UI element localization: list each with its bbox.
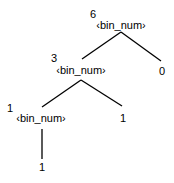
edge-root-left	[82, 32, 121, 59]
tree-edges	[0, 0, 174, 183]
edge-root-right	[121, 32, 161, 61]
leftleft-value: 1	[7, 102, 13, 114]
edge-left-leftleft	[42, 80, 81, 107]
root-value: 6	[90, 8, 96, 20]
left-right-leaf: 1	[120, 112, 126, 124]
root-label: ‹bin_num›	[96, 19, 146, 31]
leftleft-label: ‹bin_num›	[16, 112, 66, 124]
edge-left-leftright	[81, 80, 122, 106]
left-value: 3	[51, 52, 57, 64]
root-right-leaf: 0	[159, 65, 165, 77]
left-label: ‹bin_num›	[56, 64, 106, 76]
leftleft-leaf: 1	[39, 161, 45, 173]
